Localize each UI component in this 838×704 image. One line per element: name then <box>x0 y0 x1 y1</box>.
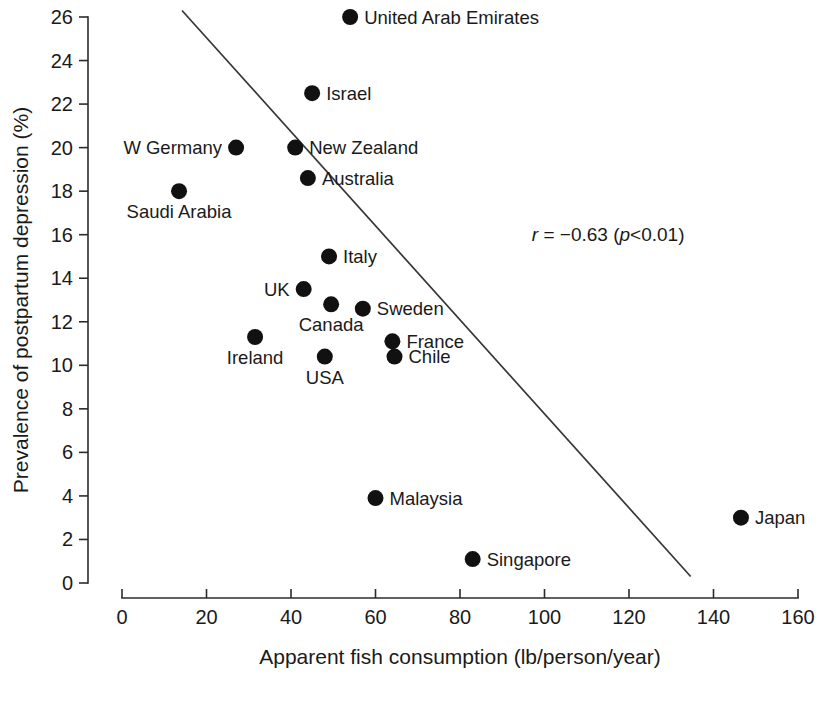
data-point-marker <box>296 281 312 297</box>
data-point-label: Italy <box>343 246 378 267</box>
data-point-marker <box>171 183 187 199</box>
x-tick-label: 0 <box>116 606 127 628</box>
data-point-label: Sweden <box>377 298 444 319</box>
y-tick-label: 10 <box>51 354 73 376</box>
x-tick-label: 20 <box>195 606 217 628</box>
annotation-p-symbol: p <box>618 224 630 245</box>
data-point-marker <box>342 9 358 25</box>
data-point-label: Saudi Arabia <box>127 201 233 222</box>
y-tick-label: 18 <box>51 180 73 202</box>
data-point-marker <box>228 140 244 156</box>
x-axis-title: Apparent fish consumption (lb/person/yea… <box>259 645 661 668</box>
x-tick-label: 60 <box>364 606 386 628</box>
data-point-label: Canada <box>299 314 365 335</box>
y-tick-label: 8 <box>62 398 73 420</box>
data-point-label: Ireland <box>227 347 284 368</box>
x-axis-ticks: 020406080100120140160 <box>116 589 814 628</box>
data-point-marker <box>355 301 371 317</box>
scatter-plot-svg: 02468101214161820222426 0204060801001201… <box>0 0 838 704</box>
correlation-annotation: r = −0.63 (p<0.01) <box>532 224 685 245</box>
x-tick-label: 80 <box>449 606 471 628</box>
data-point-marker <box>384 333 400 349</box>
data-point-marker <box>321 248 337 264</box>
data-point-marker <box>287 140 303 156</box>
data-point-label: UK <box>264 279 290 300</box>
x-tick-label: 40 <box>280 606 302 628</box>
y-tick-label: 0 <box>62 572 73 594</box>
data-point-marker <box>247 329 263 345</box>
data-point-label: United Arab Emirates <box>364 7 539 28</box>
data-point-marker <box>300 170 316 186</box>
data-point-label: Japan <box>755 507 805 528</box>
y-axis-ticks: 02468101214161820222426 <box>51 6 88 594</box>
y-tick-label: 20 <box>51 137 73 159</box>
data-point-marker <box>387 349 403 365</box>
annotation-p-value: <0.01) <box>630 224 684 245</box>
y-tick-label: 6 <box>62 441 73 463</box>
annotation-r-value: = −0.63 ( <box>538 224 620 245</box>
y-tick-label: 24 <box>51 50 73 72</box>
y-tick-label: 26 <box>51 6 73 28</box>
data-point-label: Israel <box>326 83 371 104</box>
y-tick-label: 14 <box>51 267 73 289</box>
data-point-marker <box>317 349 333 365</box>
data-point-label: New Zealand <box>309 137 418 158</box>
data-point-marker <box>323 296 339 312</box>
data-point-marker <box>368 490 384 506</box>
data-point-label: Australia <box>322 168 395 189</box>
x-tick-label: 140 <box>697 606 730 628</box>
data-points-group: United Arab EmiratesIsraelW GermanyNew Z… <box>123 7 805 570</box>
y-tick-label: 16 <box>51 224 73 246</box>
data-point-label: Singapore <box>487 549 571 570</box>
data-point-marker <box>733 510 749 526</box>
chart-figure: 02468101214161820222426 0204060801001201… <box>0 0 838 704</box>
x-tick-label: 100 <box>528 606 561 628</box>
y-tick-label: 22 <box>51 93 73 115</box>
x-tick-label: 120 <box>612 606 645 628</box>
data-point-marker <box>465 551 481 567</box>
data-point-label: USA <box>306 367 345 388</box>
y-tick-label: 2 <box>62 528 73 550</box>
data-point-label: Chile <box>409 346 451 367</box>
y-axis-title: Prevalence of postpartum depression (%) <box>9 107 32 493</box>
y-tick-label: 12 <box>51 311 73 333</box>
data-point-label: Malaysia <box>390 488 464 509</box>
data-point-label: W Germany <box>123 137 222 158</box>
data-point-marker <box>304 85 320 101</box>
x-tick-label: 160 <box>781 606 814 628</box>
y-tick-label: 4 <box>62 485 73 507</box>
